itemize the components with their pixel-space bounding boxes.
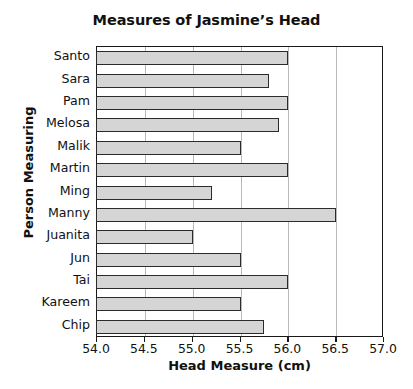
- y-axis-tick-label: Jun: [0, 251, 90, 265]
- bar: [96, 163, 288, 177]
- bar: [96, 230, 193, 244]
- y-axis-tick-label: Sara: [0, 72, 90, 86]
- y-axis-tick-label: Melosa: [0, 116, 90, 130]
- x-axis-title: Head Measure (cm): [96, 358, 383, 373]
- y-axis-tick-label: Martin: [0, 161, 90, 175]
- y-axis-tick-label: Malik: [0, 139, 90, 153]
- gridline: [288, 47, 289, 336]
- y-axis-tick-label: Ming: [0, 184, 90, 198]
- y-axis-tick-label: Tai: [0, 273, 90, 287]
- bar: [96, 141, 241, 155]
- bar: [96, 253, 241, 267]
- bar: [96, 186, 212, 200]
- bar: [96, 208, 336, 222]
- y-axis-tick-label: Santo: [0, 49, 90, 63]
- gridline: [336, 47, 337, 336]
- bar: [96, 320, 264, 334]
- bar: [96, 51, 288, 65]
- y-axis-tick-label: Pam: [0, 94, 90, 108]
- y-axis-tick-label: Juanita: [0, 228, 90, 242]
- y-axis-tick-label: Chip: [0, 318, 90, 332]
- plot-area: [96, 46, 383, 337]
- bar-chart: Measures of Jasmine’s Head Person Measur…: [0, 0, 413, 389]
- y-axis-tick-label: Manny: [0, 206, 90, 220]
- chart-title: Measures of Jasmine’s Head: [0, 12, 413, 28]
- gridline: [241, 47, 242, 336]
- bar: [96, 297, 241, 311]
- x-axis-tick-label: 57.0: [353, 341, 413, 356]
- bar: [96, 96, 288, 110]
- bar: [96, 74, 269, 88]
- bar: [96, 275, 288, 289]
- y-axis-tick-label: Kareem: [0, 295, 90, 309]
- bar: [96, 118, 279, 132]
